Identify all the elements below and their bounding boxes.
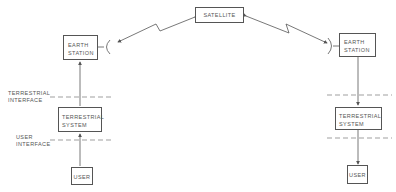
left-earth-station-line1: EARTH — [68, 41, 97, 49]
left-user-box: USER — [71, 167, 93, 185]
left-earth-station-box: EARTH STATION — [63, 35, 98, 60]
right-user-box: USER — [347, 165, 368, 184]
satellite-label: SATELLITE — [196, 11, 243, 19]
left-terrestrial-system-box: TERRESTRIAL SYSTEM — [58, 107, 102, 132]
uplink-zigzag-arrow — [118, 17, 195, 42]
left-antenna-icon — [107, 40, 111, 54]
right-antenna-icon — [328, 38, 332, 54]
diagram-connections — [0, 0, 396, 192]
right-terrestrial-system-box: TERRESTRIAL SYSTEM — [335, 107, 382, 130]
satellite-box: SATELLITE — [195, 7, 244, 23]
left-user-interface-label: USER INTERFACE — [16, 134, 50, 148]
left-terrestrial-interface-label: TERRESTRIAL INTERFACE — [8, 90, 50, 104]
downlink-zigzag-arrow — [246, 16, 327, 43]
right-earth-station-box: EARTH STATION — [339, 33, 376, 57]
left-earth-station-line2: STATION — [68, 49, 97, 57]
